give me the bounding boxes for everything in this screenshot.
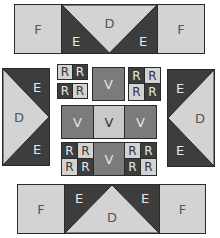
top-flying-geese-unit: F E D E F <box>14 4 205 54</box>
r-square: R <box>144 67 161 84</box>
r-square: R <box>57 83 73 99</box>
r-square: R <box>72 83 88 99</box>
top-geese-patch: E D E <box>62 5 157 53</box>
r-square: R <box>61 142 78 159</box>
patch-label: E <box>139 35 147 48</box>
r-square: R <box>128 67 145 84</box>
left-geese-shape <box>3 69 49 165</box>
patch-label: D <box>14 111 24 124</box>
patch-label: F <box>179 203 186 216</box>
bottom-f-right-patch: F <box>159 185 205 233</box>
patch-label: E <box>176 144 184 157</box>
patch-label: E <box>33 143 41 156</box>
v-patch: V <box>124 105 157 139</box>
bottom-flying-geese-unit: F E D E F <box>17 184 206 234</box>
left-geese-unit: E D E <box>2 68 50 166</box>
r-square: R <box>77 142 94 159</box>
v-patch: V <box>93 105 125 139</box>
patch-label: D <box>104 17 114 30</box>
patch-label: D <box>107 211 117 224</box>
center-bottom-row: R R R R V R R R R <box>61 142 157 176</box>
r-square: R <box>77 158 94 176</box>
r-square: R <box>128 83 145 101</box>
bottom-geese-patch: E D E <box>65 185 159 233</box>
r-square: R <box>144 83 161 101</box>
patch-label: F <box>37 203 44 216</box>
center-top-right-r-block: R R R R <box>128 67 161 101</box>
r-square: R <box>124 142 141 159</box>
bottom-f-left-patch: F <box>18 185 65 233</box>
center-top-left-r-rows: R R R R <box>57 64 89 99</box>
v-patch: V <box>93 142 125 176</box>
patch-label: E <box>72 35 80 48</box>
r-square: R <box>61 158 78 176</box>
r-square: R <box>124 158 141 176</box>
center-top-v-patch: V <box>92 67 125 101</box>
patch-label: F <box>177 23 184 36</box>
top-f-right-patch: F <box>157 5 204 53</box>
right-geese-shape <box>168 70 214 166</box>
top-f-left-patch: F <box>15 5 62 53</box>
r-square: R <box>72 64 88 80</box>
right-geese-unit: E D E <box>167 69 215 167</box>
r-square: R <box>140 142 157 159</box>
r-square: R <box>140 158 157 176</box>
patch-label: E <box>75 192 83 205</box>
patch-label: D <box>195 112 205 125</box>
patch-label: F <box>34 23 41 36</box>
patch-label: E <box>176 82 184 95</box>
v-patch: V <box>61 105 94 139</box>
r-square: R <box>57 64 73 80</box>
patch-label: E <box>141 192 149 205</box>
patch-label: E <box>33 81 41 94</box>
center-middle-v-row: V V V <box>61 105 157 139</box>
